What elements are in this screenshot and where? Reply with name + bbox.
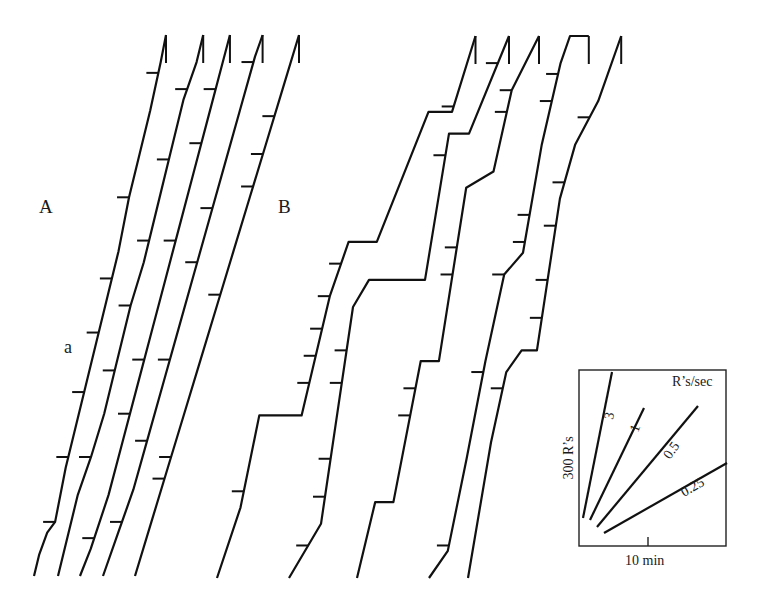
- record-A1: [34, 35, 166, 576]
- panel-b-label: B: [278, 196, 291, 218]
- rate-line-3: [583, 372, 612, 518]
- inset-frame: [579, 370, 726, 546]
- record-B5: [468, 36, 621, 578]
- inset-xlabel: 10 min: [625, 553, 664, 569]
- record-B3: [357, 36, 539, 578]
- record-A3: [80, 35, 230, 576]
- figure: 310.50.25 A a B R’s/sec 10 min 300 R’s: [0, 0, 757, 601]
- inset-title: R’s/sec: [672, 374, 712, 390]
- panel-a-label: A: [39, 196, 53, 218]
- figure-canvas: 310.50.25: [0, 0, 757, 601]
- rate-label-1: 1: [627, 422, 643, 434]
- record-B1: [217, 36, 476, 578]
- inset-ylabel: 300 R’s: [561, 413, 577, 503]
- rate-label-3: 3: [601, 411, 617, 420]
- record-a-annotation: a: [64, 337, 72, 358]
- rate-label-0.5: 0.5: [660, 439, 682, 462]
